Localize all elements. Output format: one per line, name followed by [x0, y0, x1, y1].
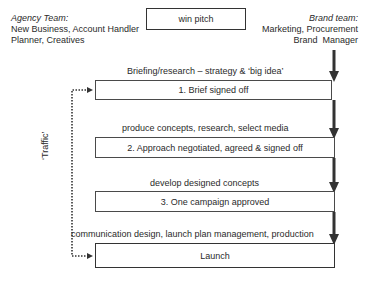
brand-team-roles-line1: Marketing, Procurement — [262, 24, 358, 35]
launch-box: Launch — [95, 243, 335, 268]
brand-team-title: Brand team: — [262, 13, 358, 24]
stage-2-activity: produce concepts, research, select media — [122, 123, 289, 133]
milestone-1-box: 1. Brief signed off — [95, 80, 332, 100]
stage-4-activity: communication design, launch plan manage… — [71, 229, 314, 239]
brand-team-block: Brand team: Marketing, Procurement Brand… — [262, 13, 358, 46]
agency-team-roles-line2: Planner, Creatives — [11, 35, 139, 46]
brand-team-roles-line2: Brand Manager — [262, 35, 358, 46]
stage-3-activity: develop designed concepts — [150, 178, 259, 188]
win-pitch-box: win pitch — [146, 8, 246, 30]
agency-team-title: Agency Team: — [11, 13, 139, 24]
agency-team-roles-line1: New Business, Account Handler — [11, 24, 139, 35]
agency-team-block: Agency Team: New Business, Account Handl… — [11, 13, 139, 46]
stage-1-activity: Briefing/research – strategy & ‘big idea… — [127, 66, 284, 76]
milestone-3-box: 3. One campaign approved — [95, 191, 335, 212]
milestone-2-box: 2. Approach negotiated, agreed & signed … — [95, 137, 335, 158]
traffic-label: ‘Traffic’ — [40, 131, 50, 160]
